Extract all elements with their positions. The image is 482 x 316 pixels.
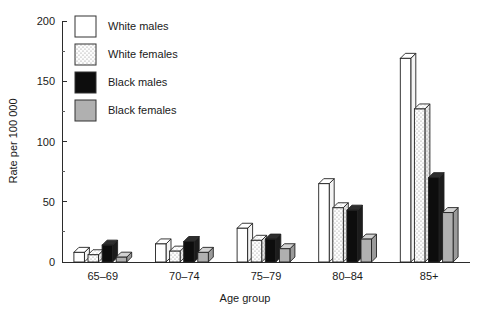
bar (429, 173, 445, 262)
bar-chart-figure: 05010015020065–6970–7475–7980–8485+ Whit… (0, 0, 482, 316)
bar-front-face (414, 109, 425, 262)
bar (361, 234, 377, 262)
bar-front-face (74, 252, 85, 262)
legend-label: White males (108, 20, 169, 32)
bar-front-face (237, 228, 248, 262)
x-tick-label: 70–74 (169, 270, 200, 282)
bar-side-face (453, 208, 458, 262)
bar (237, 223, 253, 262)
bar (319, 179, 335, 262)
bar-front-face (170, 251, 181, 262)
y-tick-label: 150 (37, 75, 55, 87)
y-axis-title: Rate per 100 000 (7, 98, 19, 183)
bar (265, 234, 281, 262)
bar-front-face (156, 244, 167, 262)
y-tick-label: 100 (37, 136, 55, 148)
bar (102, 240, 118, 262)
bar-front-face (361, 239, 372, 262)
x-tick-label: 85+ (420, 270, 439, 282)
legend-swatch (75, 100, 96, 121)
bar-front-face (429, 178, 440, 262)
bar (333, 203, 349, 262)
legend-swatch (75, 16, 96, 37)
bar-front-face (251, 240, 262, 262)
bar-front-face (319, 184, 330, 262)
bar (170, 246, 186, 262)
bar-front-face (265, 239, 276, 262)
bar (184, 237, 200, 262)
bar-front-face (333, 208, 344, 262)
bar-front-face (443, 213, 454, 262)
legend-label: White females (108, 48, 178, 60)
bar-front-face (400, 58, 411, 262)
y-tick-label: 50 (43, 196, 55, 208)
bar (74, 247, 90, 262)
bar-front-face (184, 242, 195, 262)
bar-front-face (198, 252, 209, 262)
y-tick-label: 0 (49, 256, 55, 268)
legend-swatch (75, 72, 96, 93)
bar (251, 235, 267, 262)
legend-label: Black males (108, 76, 168, 88)
x-tick-label: 75–79 (251, 270, 282, 282)
bar-front-face (116, 257, 127, 262)
bar (279, 244, 295, 262)
bar-front-face (347, 210, 358, 262)
x-tick-label: 80–84 (332, 270, 363, 282)
legend-label: Black females (108, 104, 177, 116)
bar-front-face (279, 249, 290, 262)
chart-canvas: 05010015020065–6970–7475–7980–8485+ Whit… (0, 0, 482, 316)
x-tick-label: 65–69 (88, 270, 119, 282)
bar (414, 104, 430, 262)
bar (156, 239, 172, 262)
x-axis-title: Age group (220, 292, 271, 304)
bar (347, 205, 363, 262)
bar (443, 208, 459, 262)
bar-front-face (88, 255, 99, 262)
legend-swatch (75, 44, 96, 65)
bar-front-face (102, 245, 113, 262)
y-tick-label: 200 (37, 15, 55, 27)
bar (198, 247, 214, 262)
bar (400, 53, 416, 262)
